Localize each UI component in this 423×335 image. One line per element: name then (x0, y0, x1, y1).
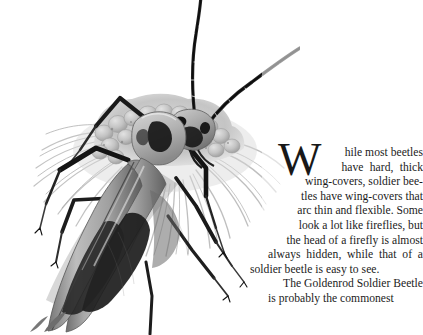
text-line: The Goldenrod Soldier Beetle (248, 277, 423, 292)
beetle-abdomen (150, 190, 180, 268)
text-line: have hard, thick (248, 161, 423, 176)
text-line: always hidden, while that of a (248, 248, 423, 263)
text-line: arc thin and flexible. Some (248, 204, 423, 219)
text-line: look a lot like fireflies, but (248, 219, 423, 234)
text-line: hile most beetles (248, 146, 423, 161)
text-line: tles have wing-covers that (248, 190, 423, 205)
article-text-block: hile most beetles have hard, thick wing-… (248, 146, 423, 335)
book-page: W hile most beetles have hard, thick win… (0, 0, 423, 335)
drop-cap-w: W (278, 141, 320, 179)
text-line: is probably the commonest (248, 292, 423, 307)
text-line: the head of a firefly is almost (248, 234, 423, 249)
text-line: wing-covers, soldier bee- (248, 175, 423, 190)
beetle-pronotum (132, 112, 186, 165)
text-line: soldier beetle is easy to see. (248, 263, 423, 278)
